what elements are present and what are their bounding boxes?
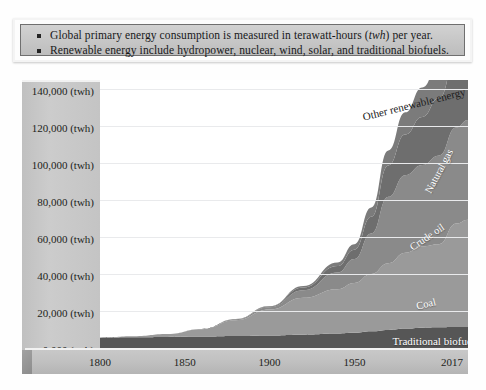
stacked-area-paths: [100, 80, 468, 348]
y-axis-tick-label: 120,000 (twh): [32, 122, 94, 134]
info-callout-inner: Global primary energy consumption is mea…: [20, 24, 465, 56]
plot-area: Other renewable energyNatural gasCrude o…: [100, 80, 468, 348]
y-axis-tick-label: 140,000 (twh): [32, 85, 94, 97]
x-axis-tick-label: 1950: [343, 356, 365, 368]
y-axis-tick-label: 20,000 (twh): [37, 307, 94, 319]
x-axis-tick-label: 2017: [441, 356, 463, 368]
gridline: [100, 89, 468, 90]
y-axis-tick-label: 60,000 (twh): [37, 233, 94, 245]
gridline: [100, 237, 468, 238]
gridline: [100, 274, 468, 275]
gridline: [100, 163, 468, 164]
gridline: [100, 200, 468, 201]
info-note-line-1-text: Global primary energy consumption is mea…: [50, 28, 433, 43]
info-callout-box: Global primary energy consumption is mea…: [13, 18, 472, 62]
gridline: [100, 311, 468, 312]
unit-emphasis: twh: [369, 29, 386, 41]
x-axis-tick-label: 1850: [174, 356, 196, 368]
info-note-line-1: Global primary energy consumption is mea…: [27, 28, 458, 43]
info-note-line-2: Renewable energy include hydropower, nuc…: [27, 43, 458, 58]
y-axis-band: 0,000 (twh)20,000 (twh)40,000 (twh)60,00…: [22, 80, 100, 350]
x-axis-tick-label: 1900: [259, 356, 281, 368]
square-bullet-icon: [37, 34, 41, 38]
gridline: [100, 126, 468, 127]
y-axis-tick-label: 100,000 (twh): [32, 159, 94, 171]
energy-consumption-area-chart: 0,000 (twh)20,000 (twh)40,000 (twh)60,00…: [22, 80, 468, 372]
x-axis-tick-label: 1800: [89, 356, 111, 368]
y-axis-tick-label: 40,000 (twh): [37, 270, 94, 282]
square-bullet-icon: [37, 49, 41, 53]
screenshot-root: Global primary energy consumption is mea…: [0, 0, 486, 390]
x-axis-band: 18001850190019502017: [25, 348, 468, 374]
info-note-line-2-text: Renewable energy include hydropower, nuc…: [50, 43, 449, 58]
y-axis-tick-label: 80,000 (twh): [37, 196, 94, 208]
